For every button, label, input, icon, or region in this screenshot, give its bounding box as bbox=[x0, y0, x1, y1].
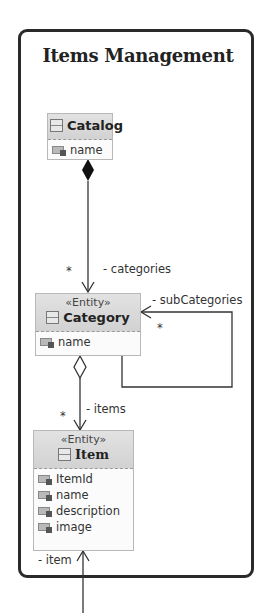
attribute-icon bbox=[38, 474, 53, 485]
class-header: «Entity» Category bbox=[36, 294, 140, 332]
attribute[interactable]: description bbox=[38, 503, 130, 519]
stereotype: «Entity» bbox=[36, 433, 131, 446]
attribute[interactable]: image bbox=[38, 519, 130, 535]
class-icon bbox=[58, 448, 71, 461]
class-icon bbox=[50, 119, 63, 132]
multiplicity-label: * bbox=[66, 265, 72, 278]
attribute[interactable]: name bbox=[52, 142, 109, 158]
stereotype: «Entity» bbox=[38, 296, 138, 309]
composition-link[interactable] bbox=[82, 159, 94, 292]
class-catalog[interactable]: Catalog name bbox=[47, 113, 113, 160]
attribute-icon bbox=[52, 145, 67, 156]
class-category[interactable]: «Entity» Category name bbox=[35, 293, 141, 356]
attribute[interactable]: name bbox=[40, 334, 137, 350]
attribute-icon bbox=[38, 506, 53, 517]
role-label: - items bbox=[86, 403, 126, 416]
attribute-list: name bbox=[36, 332, 140, 352]
class-name: Category bbox=[63, 309, 129, 326]
attribute-list: name bbox=[48, 140, 112, 160]
attribute[interactable]: name bbox=[38, 487, 130, 503]
class-name: Catalog bbox=[67, 117, 123, 134]
hollow-diamond-icon bbox=[74, 356, 86, 378]
external-item-link[interactable] bbox=[77, 551, 89, 613]
multiplicity-label: * bbox=[157, 322, 163, 335]
multiplicity-label: * bbox=[60, 410, 66, 423]
class-header: «Entity» Item bbox=[34, 431, 133, 469]
filled-diamond-icon bbox=[82, 159, 94, 181]
class-icon bbox=[46, 311, 59, 324]
aggregation-link[interactable] bbox=[74, 356, 86, 430]
class-item[interactable]: «Entity» Item ItemId name description im… bbox=[33, 430, 134, 551]
attribute-list: ItemId name description image bbox=[34, 469, 133, 537]
class-header: Catalog bbox=[48, 114, 112, 140]
attribute[interactable]: ItemId bbox=[38, 471, 130, 487]
role-label: - item bbox=[38, 554, 72, 567]
role-label: - subCategories bbox=[152, 294, 242, 307]
class-name: Item bbox=[75, 446, 109, 463]
attribute-icon bbox=[38, 490, 53, 501]
attribute-icon bbox=[40, 337, 55, 348]
attribute-icon bbox=[38, 522, 53, 533]
role-label: - categories bbox=[103, 263, 171, 276]
